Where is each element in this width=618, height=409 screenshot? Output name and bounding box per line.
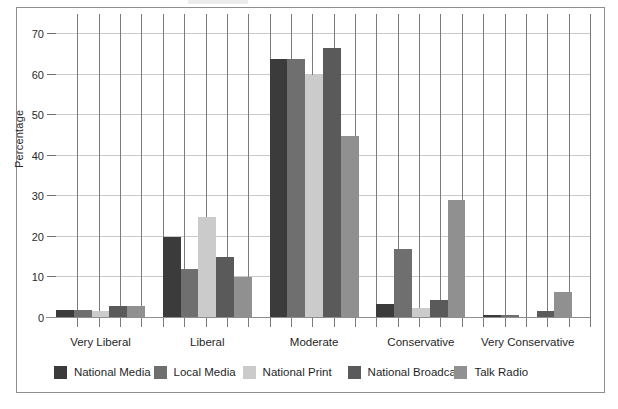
legend-item[interactable]: National Broadcast	[348, 366, 465, 379]
legend-label: National Print	[263, 367, 332, 379]
gridline-vertical	[505, 14, 506, 318]
x-axis-tick	[569, 318, 570, 327]
y-axis-tick	[47, 114, 56, 115]
gridline-vertical	[483, 14, 484, 318]
bar	[198, 217, 216, 318]
y-axis-tick	[47, 74, 56, 75]
legend-label: National Media	[74, 367, 151, 379]
legend-swatch	[454, 366, 467, 379]
x-axis-tick	[312, 318, 313, 327]
y-axis-tick	[47, 33, 56, 34]
x-axis-tick	[483, 318, 484, 327]
gridline-vertical	[248, 14, 249, 318]
y-axis-tick-label: 70	[10, 29, 44, 40]
y-axis-tick-label: 50	[10, 110, 44, 121]
y-axis-tick-label: 0	[10, 313, 44, 324]
y-axis-tick	[47, 236, 56, 237]
y-axis-tick	[47, 155, 56, 156]
x-axis-tick	[248, 318, 249, 327]
x-axis-tick	[120, 318, 121, 327]
bar	[234, 277, 252, 318]
y-axis-tick-label: 20	[10, 231, 44, 242]
x-axis-tick	[526, 318, 527, 327]
x-axis-category-labels: Very LiberalLiberalModerateConservativeV…	[56, 336, 590, 354]
gridline-vertical	[547, 14, 548, 318]
bar	[448, 200, 466, 318]
legend-label: National Broadcast	[368, 367, 465, 379]
x-axis-category-label: Very Conservative	[481, 336, 574, 348]
gridline-vertical	[590, 14, 591, 318]
gridline-vertical	[376, 14, 377, 318]
chart-figure: Percentage 010203040506070 Very LiberalL…	[0, 0, 618, 409]
y-axis-tick	[47, 195, 56, 196]
x-axis-tick	[227, 318, 228, 327]
legend-swatch	[54, 366, 67, 379]
x-axis-tick	[376, 318, 377, 327]
y-axis-tick-label: 30	[10, 191, 44, 202]
x-axis-tick	[547, 318, 548, 327]
gridline-vertical	[440, 14, 441, 318]
bar	[430, 300, 448, 318]
x-axis-tick	[99, 318, 100, 327]
legend-swatch	[348, 366, 361, 379]
x-axis-tick	[440, 318, 441, 327]
gridline-vertical	[526, 14, 527, 318]
x-axis-tick	[419, 318, 420, 327]
gridline-horizontal	[56, 33, 590, 34]
x-axis-tick	[141, 318, 142, 327]
y-axis-tick-label: 40	[10, 150, 44, 161]
page-edge-artifact	[188, 0, 248, 4]
legend-swatch	[154, 366, 167, 379]
bar	[305, 75, 323, 318]
bar	[287, 59, 305, 318]
gridline-vertical	[141, 14, 142, 318]
legend-item[interactable]: Talk Radio	[454, 366, 528, 379]
bar	[323, 48, 341, 318]
gridline-vertical	[77, 14, 78, 318]
bar	[394, 249, 412, 318]
legend-item[interactable]: National Print	[243, 366, 332, 379]
x-axis-baseline	[46, 317, 590, 318]
bar	[216, 257, 234, 318]
plot-area: 010203040506070	[56, 14, 590, 318]
x-axis-tick	[270, 318, 271, 327]
gridline-vertical	[120, 14, 121, 318]
bar	[376, 304, 394, 318]
x-axis-tick	[505, 318, 506, 327]
x-axis-category-label: Very Liberal	[70, 336, 131, 348]
x-axis-tick	[206, 318, 207, 327]
legend-swatch	[243, 366, 256, 379]
x-axis-tick	[355, 318, 356, 327]
legend-item[interactable]: Local Media	[154, 366, 236, 379]
bar	[181, 269, 199, 318]
x-axis-tick	[462, 318, 463, 327]
bar	[554, 292, 572, 318]
x-axis-tick	[184, 318, 185, 327]
y-axis-tick	[47, 276, 56, 277]
bar	[163, 237, 181, 318]
gridline-vertical	[419, 14, 420, 318]
legend-label: Local Media	[174, 367, 236, 379]
y-axis-tick-label: 10	[10, 272, 44, 283]
x-axis-tick	[77, 318, 78, 327]
x-axis-tick	[291, 318, 292, 327]
legend-item[interactable]: National Media	[54, 366, 151, 379]
x-axis-tick	[398, 318, 399, 327]
legend-label: Talk Radio	[474, 367, 528, 379]
x-axis-tick	[163, 318, 164, 327]
x-axis-tick	[590, 318, 591, 327]
bar	[270, 59, 288, 318]
x-axis-category-label: Moderate	[290, 336, 339, 348]
chart-legend: National MediaLocal MediaNational PrintN…	[56, 366, 590, 382]
y-axis-tick-label: 60	[10, 69, 44, 80]
x-axis-category-label: Liberal	[190, 336, 225, 348]
gridline-vertical	[99, 14, 100, 318]
x-axis-tick	[334, 318, 335, 327]
bar	[341, 136, 359, 318]
gridline-vertical	[569, 14, 570, 318]
x-axis-category-label: Conservative	[387, 336, 454, 348]
